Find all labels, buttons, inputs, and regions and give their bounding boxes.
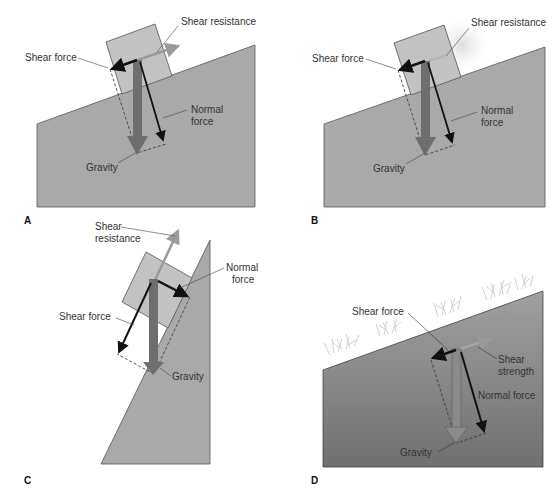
panel-letter-b: B (311, 215, 318, 226)
label-shear-resistance: Shear resistance (181, 16, 256, 27)
panel-a: Shear resistance Shear force Normal forc… (24, 16, 256, 226)
label-shear-strength: Shear (498, 354, 525, 365)
panel-b: Shear resistance Shear force Normal forc… (311, 15, 546, 226)
label-shear-force: Shear force (59, 311, 111, 322)
panel-c: Shear resistance Normal force Shear forc… (24, 221, 258, 486)
label-gravity: Gravity (172, 371, 204, 382)
label-shear-force: Shear force (352, 306, 404, 317)
slope-ground (323, 291, 543, 467)
leader-line (366, 59, 396, 69)
label-normal-force-2: force (481, 117, 504, 128)
label-shear-force: Shear force (25, 52, 77, 63)
label-shear-resistance: Shear resistance (471, 17, 546, 28)
label-gravity: Gravity (86, 162, 118, 173)
label-shear-resistance: Shear (95, 221, 122, 232)
label-normal-force: Normal (481, 105, 513, 116)
label-gravity: Gravity (373, 163, 405, 174)
label-shear-resistance-2: resistance (95, 233, 141, 244)
label-gravity: Gravity (400, 447, 432, 458)
leader-line (78, 58, 108, 68)
panel-letter-a: A (24, 215, 31, 226)
label-normal-force: Normal (226, 262, 258, 273)
leader-line (116, 318, 134, 325)
panel-letter-c: C (24, 475, 31, 486)
label-normal-force-2: force (232, 274, 255, 285)
label-normal-force: Normal force (478, 390, 536, 401)
slope-forces-figure: Shear resistance Shear force Normal forc… (0, 0, 559, 501)
label-normal-force: Normal (191, 104, 223, 115)
label-shear-strength-2: strength (498, 366, 534, 377)
label-normal-force-2: force (191, 116, 214, 127)
label-shear-force: Shear force (312, 53, 364, 64)
panel-letter-d: D (311, 475, 318, 486)
panel-d: Shear force Shear strength Normal force … (311, 274, 543, 486)
